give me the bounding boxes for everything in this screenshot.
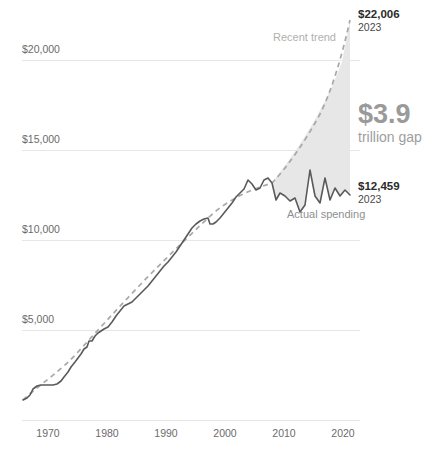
y-tick-label: $10,000 <box>22 223 60 235</box>
recent-trend-series-label: Recent trend <box>273 31 336 43</box>
actual-endpoint-year: 2023 <box>358 193 400 206</box>
x-tick-label: 2000 <box>213 427 237 439</box>
gridlines <box>22 61 360 421</box>
y-tick-label: $5,000 <box>22 313 54 325</box>
x-tick-label: 2020 <box>331 427 355 439</box>
x-tick-label: 2010 <box>272 427 296 439</box>
actual-endpoint-annotation: $12,459 2023 <box>358 180 400 206</box>
x-axis-ticks: 1970 1980 1990 2000 2010 2020 <box>36 427 355 439</box>
trend-endpoint-year: 2023 <box>358 21 400 34</box>
y-tick-label: $20,000 <box>22 43 60 55</box>
gap-caption: trillion gap <box>358 129 422 146</box>
y-tick-label: $15,000 <box>22 133 60 145</box>
actual-spending-series-label: Actual spending <box>287 208 365 220</box>
gap-value: $3.9 <box>358 99 422 129</box>
chart-plot-area: $20,000 $15,000 $10,000 $5,000 1970 1980… <box>0 0 442 451</box>
chart-container: $20,000 $15,000 $10,000 $5,000 1970 1980… <box>0 0 442 451</box>
x-tick-label: 1970 <box>36 427 60 439</box>
gap-callout-annotation: $3.9 trillion gap <box>358 99 422 146</box>
trend-endpoint-value: $22,006 <box>358 8 400 21</box>
actual-endpoint-value: $12,459 <box>358 180 400 193</box>
gap-shaded-region <box>272 20 350 212</box>
y-axis-ticks: $20,000 $15,000 $10,000 $5,000 <box>22 43 60 325</box>
trend-endpoint-annotation: $22,006 2023 <box>358 8 400 34</box>
x-tick-label: 1980 <box>95 427 119 439</box>
x-tick-label: 1990 <box>154 427 178 439</box>
